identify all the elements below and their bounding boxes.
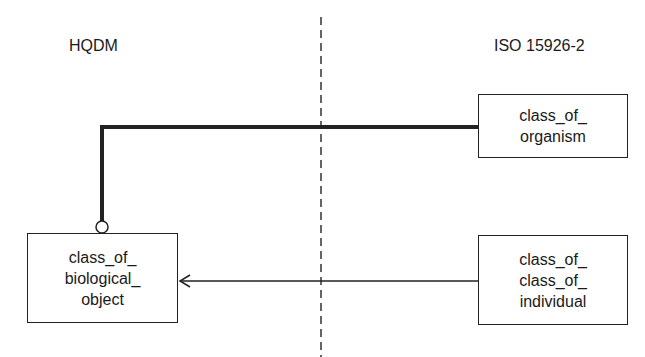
box-label-line: object bbox=[81, 289, 124, 310]
box-label-line: biological_ bbox=[65, 268, 141, 289]
right-heading: ISO 15926-2 bbox=[494, 37, 585, 55]
open-circle-end-icon bbox=[96, 221, 108, 233]
box-class-of-biological-object: class_of_ biological_ object bbox=[27, 233, 178, 323]
thick-connector-line bbox=[102, 127, 478, 221]
box-label-line: class_of_ bbox=[69, 247, 137, 268]
left-heading: HQDM bbox=[69, 37, 118, 55]
box-label-line: class_of_ bbox=[519, 249, 587, 270]
box-label-line: organism bbox=[520, 126, 586, 147]
box-label-line: class_of_ bbox=[519, 105, 587, 126]
box-label-line: individual bbox=[520, 291, 587, 312]
box-class-of-organism: class_of_ organism bbox=[478, 94, 628, 158]
box-label-line: class_of_ bbox=[519, 270, 587, 291]
box-class-of-class-of-individual: class_of_ class_of_ individual bbox=[478, 235, 628, 325]
